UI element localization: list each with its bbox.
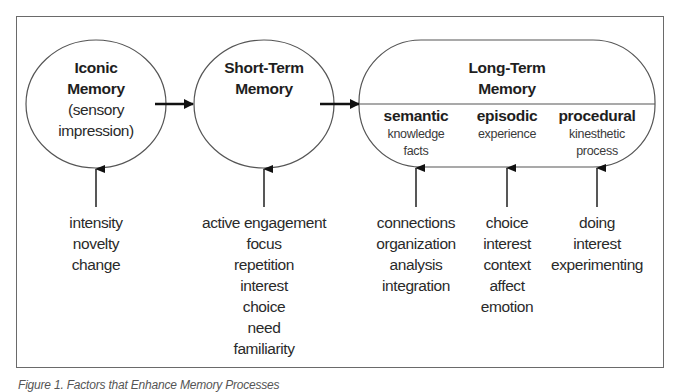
factor-item: choice — [481, 212, 533, 233]
short-term-title-line1: Short-Term — [224, 57, 303, 78]
category-procedural-sub2: process — [558, 143, 635, 160]
factor-item: familiarity — [202, 338, 326, 359]
factor-item: repetition — [202, 254, 326, 275]
category-semantic-name: semantic — [384, 106, 449, 126]
factor-item: organization — [376, 233, 456, 254]
category-procedural: procedural kinesthetic process — [558, 106, 635, 160]
long-term-memory-label: Long-Term Memory — [468, 57, 545, 99]
factor-item: emotion — [481, 296, 533, 317]
factors-semantic-list: connections organization analysis integr… — [376, 212, 456, 296]
factor-item: choice — [202, 296, 326, 317]
factor-item: integration — [376, 275, 456, 296]
factor-item: intensity — [69, 212, 122, 233]
category-semantic-sub1: knowledge — [384, 126, 449, 143]
factor-item: connections — [376, 212, 456, 233]
long-term-title-line1: Long-Term — [468, 57, 545, 78]
short-term-memory-label: Short-Term Memory — [224, 57, 303, 99]
short-term-title-line2: Memory — [224, 78, 303, 99]
factors-short-term-list: active engagement focus repetition inter… — [202, 212, 326, 359]
factors-episodic-list: choice interest context affect emotion — [481, 212, 533, 317]
factor-item: novelty — [69, 233, 122, 254]
factor-item: experimenting — [551, 254, 643, 275]
iconic-memory-label: Iconic Memory (sensory impression) — [58, 57, 134, 141]
long-term-title-line2: Memory — [468, 78, 545, 99]
figure-caption: Figure 1. Factors that Enhance Memory Pr… — [18, 378, 279, 392]
factor-item: affect — [481, 275, 533, 296]
factor-item: context — [481, 254, 533, 275]
factor-item: need — [202, 317, 326, 338]
category-procedural-name: procedural — [558, 106, 635, 126]
iconic-title-line2: Memory — [58, 78, 134, 99]
category-episodic-name: episodic — [477, 106, 537, 126]
factor-item: interest — [481, 233, 533, 254]
category-semantic: semantic knowledge facts — [384, 106, 449, 160]
factor-item: interest — [202, 275, 326, 296]
category-episodic-sub1: experience — [477, 126, 537, 143]
iconic-sub-line2: impression) — [58, 120, 134, 141]
factors-procedural-list: doing interest experimenting — [551, 212, 643, 275]
factor-item: interest — [551, 233, 643, 254]
factors-iconic-list: intensity novelty change — [69, 212, 122, 275]
category-semantic-sub2: facts — [384, 143, 449, 160]
factor-item: change — [69, 254, 122, 275]
factor-item: active engagement — [202, 212, 326, 233]
category-procedural-sub1: kinesthetic — [558, 126, 635, 143]
category-episodic: episodic experience — [477, 106, 537, 143]
factor-item: focus — [202, 233, 326, 254]
iconic-sub-line1: (sensory — [58, 99, 134, 120]
factor-item: doing — [551, 212, 643, 233]
iconic-title-line1: Iconic — [58, 57, 134, 78]
factor-item: analysis — [376, 254, 456, 275]
